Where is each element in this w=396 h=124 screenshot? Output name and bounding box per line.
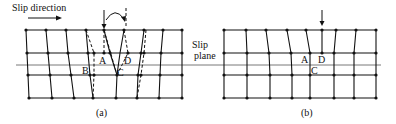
slip-direction-label: Slip direction: [12, 2, 66, 13]
caption-a: (a): [96, 107, 107, 119]
dislocation-slip-diagram: Slip direction Slip plane: [0, 0, 396, 124]
label-a-C: C: [117, 67, 124, 78]
label-a-A: A: [99, 55, 107, 66]
label-a-B: B: [82, 65, 89, 76]
label-b-D: D: [318, 54, 325, 65]
slip-plane-label-line1: Slip: [192, 39, 208, 50]
label-b-A: A: [301, 54, 309, 65]
label-a-D: D: [124, 55, 131, 66]
curved-arrow-icon: [106, 13, 126, 22]
label-b-C: C: [311, 65, 318, 76]
caption-b: (b): [301, 107, 313, 119]
slip-plane-label-line2: plane: [194, 50, 216, 61]
arrow-down-icon: [320, 10, 325, 26]
arrow-right-icon: [28, 16, 62, 21]
panel-b-lattice: [222, 28, 377, 99]
